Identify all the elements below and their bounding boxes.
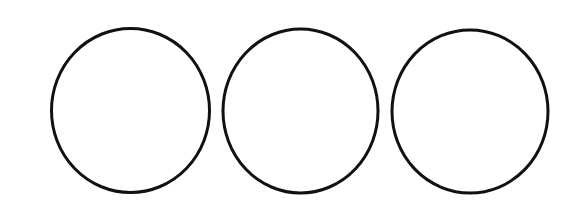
circle-left [52, 29, 210, 193]
circle-middle [223, 29, 378, 193]
diagram-canvas [0, 0, 570, 201]
circle-right [392, 30, 548, 193]
